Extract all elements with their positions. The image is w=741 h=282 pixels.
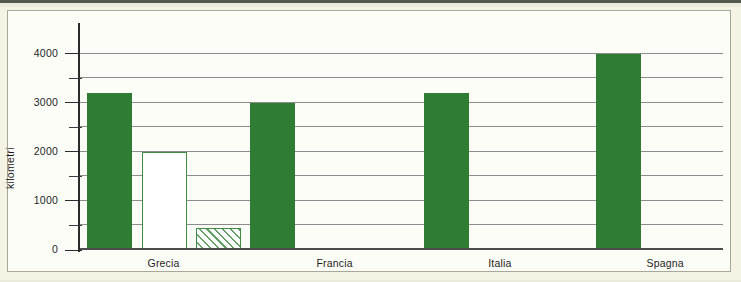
bar-grecia-serie-3[interactable] (196, 228, 241, 250)
bar-francia-serie-1[interactable] (250, 103, 295, 250)
bar-spagna-serie-1[interactable] (596, 54, 641, 250)
bar-grecia-serie-1[interactable] (87, 93, 132, 250)
chart-page: kilometri 01000200030004000 GreciaFranci… (0, 0, 741, 282)
y-tick-label: 0 (10, 243, 58, 255)
y-tick-label: 2000 (10, 145, 58, 157)
plot-area (80, 34, 723, 250)
bar-italia-serie-1[interactable] (424, 93, 469, 250)
x-tick-label-italia: Italia (488, 257, 511, 269)
page-top-rule-gap (0, 3, 741, 7)
x-tick-label-spagna: Spagna (646, 257, 683, 269)
bar-grecia-serie-2[interactable] (142, 152, 187, 250)
y-tick-label: 1000 (10, 194, 58, 206)
y-tick-label: 3000 (10, 96, 58, 108)
y-tick-label: 4000 (10, 47, 58, 59)
x-tick-label-francia: Francia (316, 257, 352, 269)
figure-frame: kilometri 01000200030004000 GreciaFranci… (7, 10, 731, 272)
x-axis-baseline (80, 248, 723, 250)
x-tick-label-grecia: Grecia (148, 257, 180, 269)
